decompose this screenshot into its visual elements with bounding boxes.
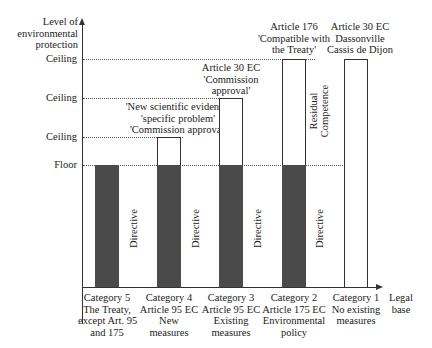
y-axis-title: Level of environmental protection [17, 16, 78, 51]
cat3-directive-label: Directive [252, 209, 263, 249]
x-axis [82, 287, 378, 288]
x-axis-title: Legal base [384, 292, 418, 315]
cat3-label: Category 3 Article 95 EC Existing measur… [199, 292, 263, 338]
cat4-ceiling-bar [157, 137, 181, 166]
cat4-label: Category 4 Article 95 EC New measures [137, 292, 201, 338]
cat3-floor-bar [219, 165, 243, 287]
guide-ceiling-2 [83, 98, 239, 99]
cat3-ceiling-label: Article 30 EC 'Commission approval' [196, 62, 266, 97]
level-label-ceiling-3: Ceiling [46, 131, 77, 143]
cat4-floor-bar [157, 165, 181, 287]
cat2-label: Category 2 Article 175 EC Environmental … [261, 292, 327, 338]
guide-ceiling-1 [83, 59, 315, 60]
y-axis [82, 24, 83, 324]
cat2-residual-competence-label: Residual Competence [308, 81, 330, 141]
level-label-ceiling-1: Ceiling [46, 53, 77, 65]
cat5-floor-bar [95, 165, 119, 287]
x-axis-arrow-icon [376, 284, 383, 290]
cat4-directive-label: Directive [190, 209, 201, 249]
level-label-floor: Floor [54, 159, 77, 171]
cat5-directive-label: Directive [128, 209, 139, 249]
cat2-directive-label: Directive [314, 209, 325, 249]
level-label-ceiling-2: Ceiling [46, 92, 77, 104]
cat3-ceiling-bar [219, 98, 243, 166]
cat2-ceiling-bar [282, 59, 306, 166]
y-axis-arrow-icon [79, 18, 85, 25]
cat1-label: Category 1 No existing measures [327, 292, 385, 327]
cat1-ceiling-label: Article 30 EC Dassonville Cassis de Dijo… [318, 21, 402, 56]
cat2-floor-bar [282, 165, 306, 287]
cat1-ceiling-bar [344, 59, 368, 288]
cat5-label: Category 5 The Treaty, except Art. 95 an… [78, 292, 136, 338]
